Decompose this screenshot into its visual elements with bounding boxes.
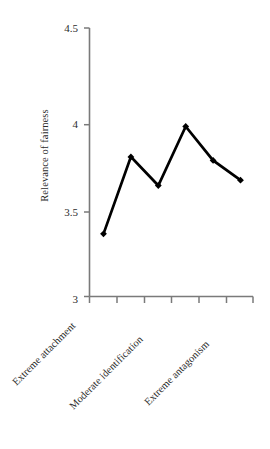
chart-figure: Relevance of fairness 4.5 4 3.5 3 bbox=[0, 0, 270, 449]
series-line-relevance-of-fairness bbox=[104, 126, 241, 233]
data-point-marker bbox=[100, 230, 107, 237]
plot-area bbox=[0, 0, 270, 449]
y-axis-ticks bbox=[84, 28, 90, 297]
x-axis-ticks bbox=[90, 297, 254, 304]
